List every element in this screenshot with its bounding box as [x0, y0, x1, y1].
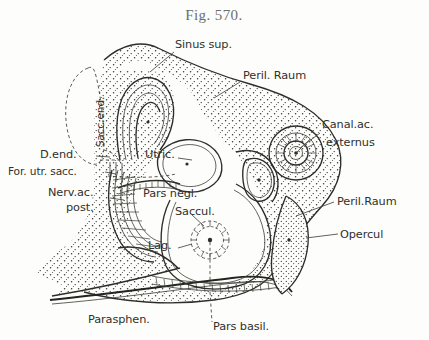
label-peril-raum-upper: Peril. Raum — [243, 69, 306, 82]
label-pars-negl: Pars negl. — [143, 187, 197, 200]
label-pars-basil: Pars basil. — [213, 320, 269, 333]
label-peril-raum-lower: Peril.Raum — [337, 195, 397, 208]
label-opercul: Opercul — [340, 228, 383, 241]
label-d-end: D.end. — [40, 148, 77, 161]
figure-title: Fig. 570. — [185, 7, 242, 23]
label-utric: Utric. — [145, 148, 175, 161]
anatomical-figure: Fig. 570. — [0, 0, 429, 340]
label-parasphen: Parasphen. — [88, 313, 150, 326]
label-canal-ac-externus-line1: Canal.ac. — [322, 118, 373, 131]
label-for-utr-sacc: For. utr. sacc. — [8, 165, 77, 177]
label-nerv-ac-line1: Nerv.ac. — [48, 186, 93, 199]
label-sacc-end: Sacc.end. — [94, 97, 106, 148]
label-canal-ac-externus-line2: externus — [326, 136, 375, 149]
label-nerv-ac-line2: post. — [66, 201, 94, 214]
label-lag: Lag. — [148, 239, 172, 252]
canalis-ac-externus — [269, 126, 323, 180]
label-saccul: Saccul. — [175, 205, 215, 218]
label-sinus-sup: Sinus sup. — [175, 38, 232, 51]
